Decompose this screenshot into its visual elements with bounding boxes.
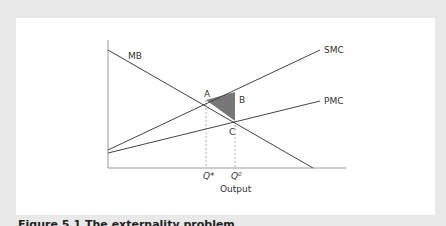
point-c-label: C xyxy=(229,127,235,137)
pmc-label: PMC xyxy=(324,96,343,106)
x-axis-label: Output xyxy=(220,184,252,194)
smc-curve xyxy=(108,50,320,150)
point-b-label: B xyxy=(239,95,245,105)
externality-diagram: MB SMC PMC A B C Q* Q⁰ Output xyxy=(0,0,446,226)
smc-label: SMC xyxy=(324,45,344,55)
point-a-label: A xyxy=(204,89,211,99)
figure-caption: Figure 5.1 The externality problem xyxy=(18,218,235,226)
mb-label: MB xyxy=(128,51,142,61)
pmc-curve xyxy=(108,101,320,153)
deadweight-loss-triangle xyxy=(206,92,235,121)
q-star-label: Q* xyxy=(203,171,215,181)
q-zero-label: Q⁰ xyxy=(231,171,242,181)
